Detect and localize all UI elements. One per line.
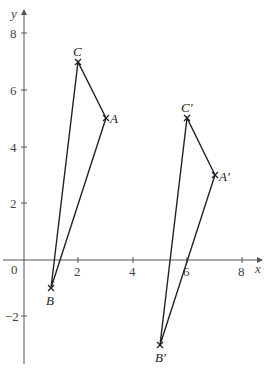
y-tick-label: 6 — [10, 83, 17, 98]
point-c-label: C — [73, 44, 82, 59]
y-tick-label: 8 — [10, 26, 17, 41]
x-tick-label: 4 — [129, 264, 136, 279]
triangle-abc: A B C — [46, 44, 118, 308]
y-tick-label: 4 — [10, 140, 17, 155]
point-c-prime-label: C′ — [181, 100, 193, 115]
x-tick-label: 2 — [74, 264, 81, 279]
x-tick-label: 8 — [238, 264, 245, 279]
y-axis-label: y — [9, 6, 17, 21]
y-tick-label: −2 — [5, 309, 19, 324]
coordinate-diagram: y x 0 2 4 6 8 8 6 4 2 −2 — [0, 0, 270, 371]
y-tick-label: 2 — [10, 196, 17, 211]
point-a-prime-label: A′ — [218, 169, 230, 184]
point-b-prime-label: B′ — [155, 350, 166, 365]
triangle-a-prime-b-prime-c-prime: A′ B′ C′ — [155, 100, 230, 365]
point-b-label: B — [46, 293, 54, 308]
x-axis-label: x — [254, 261, 261, 276]
origin-label: 0 — [11, 262, 18, 277]
point-a-label: A — [109, 111, 118, 126]
